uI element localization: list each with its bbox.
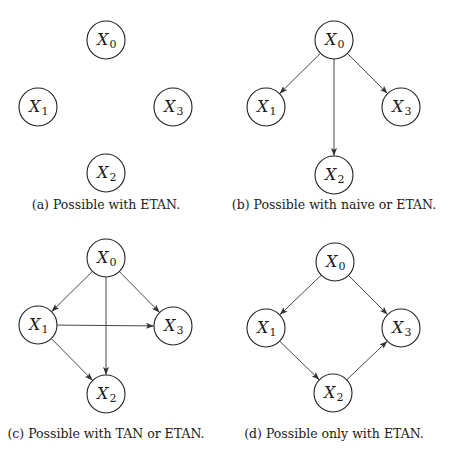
node-label: X — [27, 315, 41, 334]
node-subscript: 0 — [339, 260, 346, 273]
figure-canvas: X0X1X3X2(a) Possible with ETAN.X0X1X3X2(… — [0, 0, 449, 453]
panel-a: X0X1X3X2(a) Possible with ETAN. — [19, 21, 192, 212]
node-label: X — [95, 248, 109, 267]
node-subscript: 3 — [405, 326, 412, 339]
node-x1: X1 — [247, 88, 285, 126]
node-subscript: 2 — [338, 173, 345, 186]
node-x3: X3 — [382, 309, 420, 347]
panel-d: X0X1X3X2(d) Possible only with ETAN. — [244, 243, 424, 441]
node-label: X — [324, 252, 338, 271]
node-subscript: 1 — [42, 323, 49, 336]
node-subscript: 1 — [270, 105, 277, 118]
node-x0: X0 — [87, 239, 125, 277]
node-x3: X3 — [382, 88, 420, 126]
node-subscript: 2 — [337, 391, 344, 404]
node-subscript: 2 — [110, 392, 117, 405]
node-x1: X1 — [247, 309, 285, 347]
node-x2: X2 — [314, 374, 352, 412]
node-subscript: 0 — [110, 38, 117, 51]
node-label: X — [255, 97, 269, 116]
edge-x0-to-x3 — [348, 275, 387, 314]
node-label: X — [323, 165, 337, 184]
node-label: X — [162, 316, 176, 335]
caption-c: (c) Possible with TAN or ETAN. — [7, 426, 204, 441]
edge-x1-to-x2 — [280, 341, 319, 379]
node-x1: X1 — [19, 306, 57, 344]
node-label: X — [323, 30, 337, 49]
node-subscript: 1 — [270, 326, 277, 339]
node-subscript: 0 — [110, 256, 117, 269]
node-x2: X2 — [87, 154, 125, 192]
node-subscript: 0 — [338, 38, 345, 51]
edge-x2-to-x3 — [347, 342, 387, 380]
node-x2: X2 — [87, 375, 125, 413]
node-x1: X1 — [19, 88, 57, 126]
edge-x0-to-x1 — [280, 275, 321, 314]
node-label: X — [390, 318, 404, 337]
node-label: X — [95, 384, 109, 403]
node-subscript: 2 — [110, 171, 117, 184]
panel-c: X0X1X3X2(c) Possible with TAN or ETAN. — [7, 239, 204, 441]
node-label: X — [390, 97, 404, 116]
node-label: X — [27, 97, 41, 116]
node-label: X — [322, 383, 336, 402]
node-x3: X3 — [154, 88, 192, 126]
caption-d: (d) Possible only with ETAN. — [244, 426, 424, 441]
node-subscript: 3 — [177, 105, 184, 118]
node-x0: X0 — [316, 243, 354, 281]
node-subscript: 1 — [42, 105, 49, 118]
node-x2: X2 — [315, 156, 353, 194]
edge-x1-to-x3 — [57, 325, 154, 326]
node-label: X — [255, 318, 269, 337]
edge-x1-to-x2 — [51, 339, 92, 381]
edge-x0-to-x1 — [280, 53, 321, 93]
node-subscript: 3 — [405, 105, 412, 118]
node-label: X — [95, 163, 109, 182]
edge-x0-to-x1 — [52, 271, 93, 311]
panel-b: X0X1X3X2(b) Possible with naive or ETAN. — [232, 21, 436, 212]
caption-b: (b) Possible with naive or ETAN. — [232, 197, 436, 212]
caption-a: (a) Possible with ETAN. — [32, 197, 180, 212]
panels-root: X0X1X3X2(a) Possible with ETAN.X0X1X3X2(… — [7, 21, 436, 441]
node-subscript: 3 — [177, 324, 184, 337]
node-label: X — [162, 97, 176, 116]
edge-x0-to-x3 — [347, 53, 387, 93]
node-x3: X3 — [154, 307, 192, 345]
edge-x0-to-x3 — [119, 272, 159, 313]
node-x0: X0 — [315, 21, 353, 59]
node-label: X — [95, 30, 109, 49]
node-x0: X0 — [87, 21, 125, 59]
